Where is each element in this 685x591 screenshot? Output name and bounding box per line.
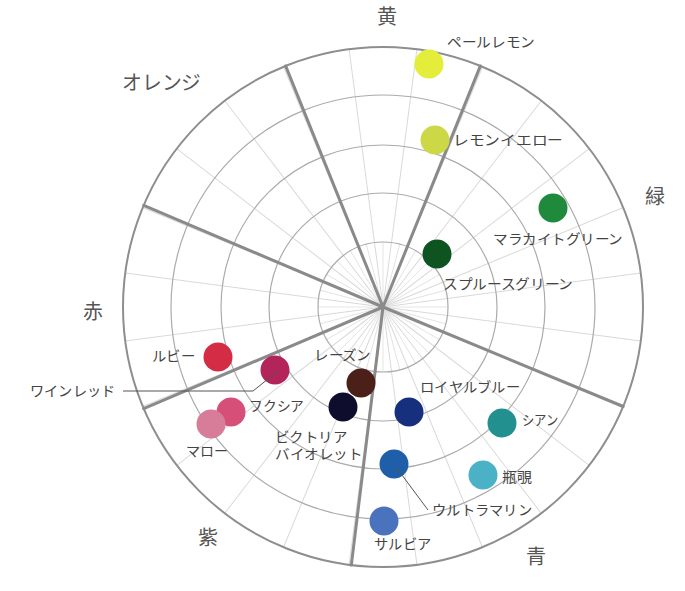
grid-spoke-inner [383, 290, 446, 307]
label-victoria-violet-line1: ビクトリア [275, 429, 347, 445]
hue-label-blue: 青 [526, 545, 546, 569]
color-dot-victoria-violet [329, 393, 358, 422]
label-pale-lemon: ペールレモン [447, 34, 535, 50]
color-dot-malachite-green [539, 194, 568, 223]
leader-line-wine-red [123, 371, 278, 391]
label-ruby: ルビー [152, 348, 195, 364]
color-dot-ultramarine [380, 450, 409, 479]
color-dot-lemon-yellow [421, 126, 450, 155]
label-mauve: マロー [186, 443, 228, 459]
color-dot-royal-blue [395, 398, 424, 427]
leader-line-ultramarine [396, 467, 428, 510]
label-wine-red: ワインレッド [30, 383, 115, 399]
hue-label-purple: 紫 [198, 526, 218, 550]
label-kamenozoki: 瓶覗 [502, 469, 532, 485]
color-dot-pale-lemon [415, 50, 444, 79]
label-victoria-violet-line2: バイオレット [275, 446, 362, 462]
label-royal-blue: ロイヤルブルー [420, 379, 520, 395]
label-fuchsia: フクシア [249, 398, 304, 414]
color-dot-cyan [488, 409, 517, 438]
grid-spoke [383, 208, 623, 307]
hue-label-red: 赤 [83, 300, 103, 324]
label-lemon-yellow: レモンイエロー [453, 132, 563, 148]
point-labels: ペールレモン レモンイエロー マラカイトグリーン スプルースグリーン ルビー ワ… [30, 34, 623, 552]
label-malachite-green: マラカイトグリーン [493, 231, 623, 247]
label-cyan: シアン [522, 412, 558, 428]
color-dot-raisin [347, 369, 376, 398]
label-ultramarine: ウルトラマリン [432, 502, 532, 518]
color-wheel-diagram: 黄 緑 青 紫 赤 オレンジ ペールレモン レモンイエロー マラカイトグリーン … [0, 0, 685, 591]
sector-divider-yellow-green [383, 66, 480, 307]
grid-spoke-inner [383, 307, 400, 370]
label-raisin: レーズン [314, 347, 371, 363]
hue-label-orange: オレンジ [122, 71, 201, 95]
color-dot-wine-red [261, 356, 290, 385]
color-dot-ruby [204, 343, 233, 372]
color-dot-salvia [370, 507, 399, 536]
color-dot-mauve [197, 410, 226, 439]
color-dot-kamenozoki [469, 461, 498, 490]
hue-label-yellow: 黄 [377, 5, 397, 29]
label-spruce-green: スプルースグリーン [443, 276, 573, 292]
color-dot-spruce-green [423, 240, 452, 269]
label-salvia: サルビア [374, 536, 431, 552]
hue-label-green: 緑 [645, 185, 665, 209]
color-dots [197, 50, 568, 536]
